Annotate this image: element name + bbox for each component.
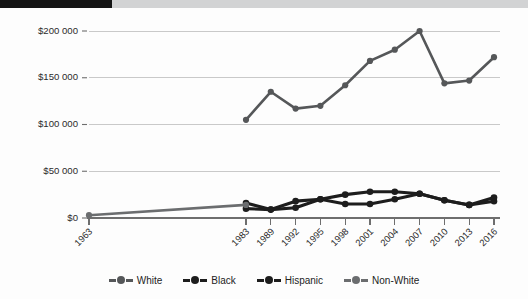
x-axis-label-2001: 2001 xyxy=(354,226,376,248)
data-point-white-1998 xyxy=(342,82,348,88)
legend-label: Black xyxy=(211,275,235,286)
legend-swatch-icon xyxy=(109,276,133,285)
legend-swatch-icon xyxy=(344,276,368,285)
x-axis-label-2010: 2010 xyxy=(428,226,450,248)
chart-legend: WhiteBlackHispanicNon-White xyxy=(0,270,528,290)
data-point-hispanic-1992 xyxy=(292,198,299,205)
legend-dash-right xyxy=(274,279,281,282)
y-axis-label-0: $0 xyxy=(67,212,78,223)
data-point-black-2004 xyxy=(392,196,399,203)
series-line-white xyxy=(246,31,494,120)
legend-dash-left xyxy=(109,279,116,282)
legend-swatch-icon xyxy=(257,276,281,285)
data-point-white-1989 xyxy=(268,89,274,95)
data-point-black-1998 xyxy=(342,201,349,208)
legend-label: Hispanic xyxy=(285,275,323,286)
data-point-hispanic-1995 xyxy=(317,196,324,203)
data-point-black-1992 xyxy=(292,204,299,211)
y-axis-label-150000: $150 000 xyxy=(38,71,78,82)
x-axis-label-2013: 2013 xyxy=(453,226,475,248)
data-point-white-2007 xyxy=(417,28,423,34)
legend-item-hispanic[interactable]: Hispanic xyxy=(257,275,323,286)
legend-item-non-white[interactable]: Non-White xyxy=(344,275,419,286)
data-point-white-2010 xyxy=(441,80,447,86)
x-axis-label-2004: 2004 xyxy=(379,226,401,248)
y-axis-label-50000: $50 000 xyxy=(43,165,78,176)
legend-item-black[interactable]: Black xyxy=(183,275,235,286)
data-point-hispanic-2001 xyxy=(367,189,374,196)
data-point-hispanic-2007 xyxy=(416,190,423,197)
legend-dash-right xyxy=(200,279,207,282)
data-point-white-2013 xyxy=(466,77,472,83)
data-point-non-white-1963 xyxy=(86,212,92,218)
data-point-hispanic-2013 xyxy=(466,202,473,209)
x-axis-label-1995: 1995 xyxy=(304,226,326,248)
y-axis-label-100000: $100 000 xyxy=(38,118,78,129)
y-axis-label-200000: $200 000 xyxy=(38,25,78,36)
x-axis-label-1992: 1992 xyxy=(279,226,301,248)
legend-dash-left xyxy=(344,279,351,282)
x-axis-label-1989: 1989 xyxy=(255,226,277,248)
data-point-hispanic-2004 xyxy=(392,189,399,196)
legend-marker-dot-icon xyxy=(191,276,199,284)
data-point-white-2004 xyxy=(392,47,398,53)
legend-marker-dot-icon xyxy=(265,276,273,284)
legend-label: Non-White xyxy=(372,275,419,286)
data-point-white-1983 xyxy=(243,117,249,123)
x-axis-label-1963: 1963 xyxy=(73,226,95,248)
data-point-black-2001 xyxy=(367,201,374,208)
x-axis-label-1983: 1983 xyxy=(230,226,252,248)
legend-dash-right xyxy=(361,279,368,282)
legend-dash-right xyxy=(126,279,133,282)
data-point-hispanic-2016 xyxy=(491,194,498,201)
x-axis-label-2016: 2016 xyxy=(478,226,500,248)
data-point-white-2016 xyxy=(491,54,497,60)
data-point-hispanic-1989 xyxy=(268,206,275,213)
data-point-white-1992 xyxy=(293,106,299,112)
legend-dash-left xyxy=(183,279,190,282)
legend-marker-dot-icon xyxy=(352,276,360,284)
chart-figure: $0$50 000$100 000$150 000$200 0001963198… xyxy=(0,0,528,299)
legend-swatch-icon xyxy=(183,276,207,285)
x-axis-label-2007: 2007 xyxy=(403,226,425,248)
legend-marker-dot-icon xyxy=(117,276,125,284)
legend-item-white[interactable]: White xyxy=(109,275,163,286)
data-point-white-1995 xyxy=(317,103,323,109)
data-point-non-white-1983 xyxy=(243,202,249,208)
data-point-hispanic-2010 xyxy=(441,197,448,204)
series-line-non-white xyxy=(89,205,246,215)
data-point-white-2001 xyxy=(367,58,373,64)
data-point-hispanic-1998 xyxy=(342,191,349,198)
legend-dash-left xyxy=(257,279,264,282)
x-axis-label-1998: 1998 xyxy=(329,226,351,248)
line-chart-plot: $0$50 000$100 000$150 000$200 0001963198… xyxy=(0,0,528,299)
legend-label: White xyxy=(137,275,163,286)
